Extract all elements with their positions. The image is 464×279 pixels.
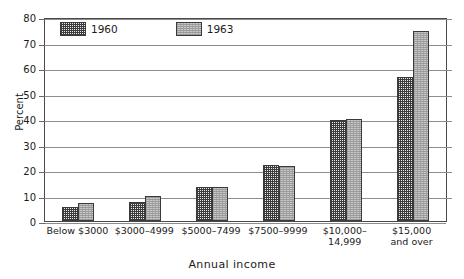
y-axis-tick-label-50: 50	[23, 91, 36, 101]
bar-group	[179, 19, 246, 221]
legend-label-1963: 1963	[207, 24, 234, 35]
bar-1963-5	[346, 119, 362, 221]
y-axis-tick-right-30	[446, 147, 452, 148]
bar-1963-2	[145, 196, 161, 222]
bar-1963-6	[413, 31, 429, 221]
y-axis-tick-right-80	[446, 19, 452, 20]
bar-1960-4	[263, 165, 279, 221]
y-axis-tick-right-40	[446, 121, 452, 122]
plot-area: 01020304050607080	[44, 18, 447, 222]
x-axis-tick-label: $7500–9999	[245, 225, 312, 236]
x-axis-tick-label-line: $15,000	[378, 225, 445, 236]
bar-1960-6	[397, 77, 413, 221]
x-axis-tick-label: Below $3000	[44, 225, 111, 236]
bar-group	[379, 19, 446, 221]
x-axis-tick-label-line: $5000–7499	[178, 225, 245, 236]
legend: 19601963	[60, 22, 233, 36]
bar-chart-figure: Percent 01020304050607080 19601963 Below…	[0, 0, 464, 279]
x-axis-tick-label-line: $7500–9999	[245, 225, 312, 236]
y-axis-tick-label-70: 70	[23, 40, 36, 50]
y-axis-tick-label-30: 30	[23, 142, 36, 152]
x-axis-tick-label: $5000–7499	[178, 225, 245, 236]
y-axis-tick-label-0: 0	[30, 218, 36, 228]
y-axis-tick-right-10	[446, 198, 452, 199]
x-axis-tick-label-line: Below $3000	[44, 225, 111, 236]
y-axis-tick-right-50	[446, 96, 452, 97]
x-axis-tick-label: $3000–4999	[111, 225, 178, 236]
y-axis-tick-right-60	[446, 70, 452, 71]
bar-1963-4	[279, 166, 295, 221]
legend-item-1963: 1963	[176, 22, 234, 36]
bar-1963-3	[212, 187, 228, 221]
legend-swatch-1963	[176, 22, 202, 36]
x-axis-tick-label: $15,000and over	[378, 225, 445, 247]
gridline-0	[45, 223, 446, 224]
bar-1960-2	[129, 202, 145, 221]
x-axis-tick-label: $10,000–14,999	[311, 225, 378, 247]
bar-group	[112, 19, 179, 221]
y-axis-tick-label-60: 60	[23, 65, 36, 75]
y-axis-tick-right-20	[446, 172, 452, 173]
bar-group	[45, 19, 112, 221]
legend-swatch-1960	[60, 22, 86, 36]
bar-1963-1	[78, 203, 94, 221]
y-axis-tick-label-40: 40	[23, 116, 36, 126]
bar-1960-3	[196, 187, 212, 221]
y-axis-tick-label-20: 20	[23, 167, 36, 177]
x-axis-tick-label-line: $3000–4999	[111, 225, 178, 236]
x-axis-title: Annual income	[0, 258, 464, 271]
x-axis-tick-label-line: and over	[378, 236, 445, 247]
bar-group	[246, 19, 313, 221]
legend-label-1960: 1960	[91, 24, 118, 35]
y-axis-tick-label-10: 10	[23, 193, 36, 203]
bar-1960-5	[330, 120, 346, 221]
y-axis-tick-label-80: 80	[23, 14, 36, 24]
bar-1960-1	[62, 207, 78, 221]
legend-item-1960: 1960	[60, 22, 118, 36]
x-axis-tick-label-line: $10,000–14,999	[311, 225, 378, 247]
bar-group	[312, 19, 379, 221]
bars-layer	[45, 19, 446, 221]
y-axis-tick-right-70	[446, 45, 452, 46]
y-axis-tick-0	[39, 223, 45, 224]
